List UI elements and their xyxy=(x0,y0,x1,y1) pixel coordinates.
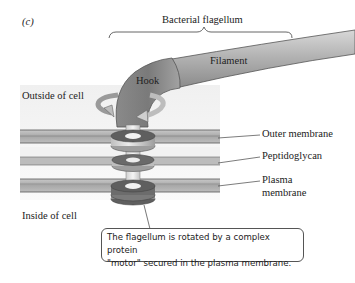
peptidoglycan-label: Peptidoglycan xyxy=(262,150,322,161)
p-ring xyxy=(112,155,154,172)
callout-pointer xyxy=(144,205,154,229)
filament-label: Filament xyxy=(210,55,247,66)
plasma-membrane-label-line1: Plasma xyxy=(262,174,292,185)
outer-membrane-leader xyxy=(218,135,260,138)
plasma-membrane-label-line2: membrane xyxy=(262,187,306,198)
outer-membrane-label: Outer membrane xyxy=(262,128,333,139)
hook-label: Hook xyxy=(136,75,159,86)
panel-label: (c) xyxy=(22,16,34,27)
motor-callout: The flagellum is rotated by a complex pr… xyxy=(101,228,304,262)
l-ring xyxy=(111,130,155,152)
filament xyxy=(172,30,355,87)
callout-line-2: "motor" secured in the plasma membrane. xyxy=(107,257,298,270)
inside-of-cell-label: Inside of cell xyxy=(22,210,77,221)
ms-ring-motor xyxy=(111,180,155,205)
callout-line-1: The flagellum is rotated by a complex pr… xyxy=(107,231,298,257)
figure-title: Bacterial flagellum xyxy=(162,14,243,25)
plasma-membrane-leader xyxy=(218,181,260,186)
flagellum-bracket xyxy=(109,27,292,38)
peptidoglycan-leader xyxy=(218,157,260,163)
outside-of-cell-label: Outside of cell xyxy=(22,90,84,101)
